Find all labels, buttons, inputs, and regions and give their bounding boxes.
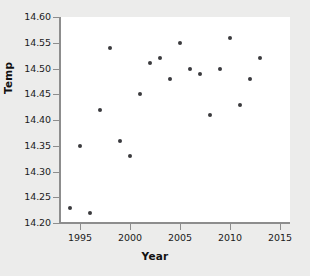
- data-point: [238, 103, 242, 107]
- x-axis-tick-label: 1995: [68, 232, 92, 243]
- y-axis-tick-label: 14.40: [24, 114, 51, 125]
- x-axis-tick: [180, 224, 181, 230]
- data-point: [218, 67, 222, 71]
- x-axis-tick-label: 2005: [168, 232, 192, 243]
- x-axis-tick-label: 2010: [218, 232, 242, 243]
- y-axis-line: [59, 17, 61, 224]
- y-axis-tick: [53, 94, 59, 95]
- x-axis-tick: [230, 224, 231, 230]
- plot-area: [59, 17, 290, 223]
- y-axis-tick: [53, 69, 59, 70]
- data-point: [88, 211, 92, 215]
- y-axis-tick-label: 14.20: [24, 217, 51, 228]
- data-point: [198, 72, 202, 76]
- x-axis-title: Year: [0, 250, 310, 262]
- y-axis-tick: [53, 120, 59, 121]
- x-axis-tick-label: 2015: [268, 232, 292, 243]
- x-axis-tick: [130, 224, 131, 230]
- x-axis-line: [59, 222, 290, 224]
- data-point: [78, 144, 82, 148]
- data-point: [98, 108, 102, 112]
- y-axis-title: Temp: [2, 62, 14, 94]
- data-point: [168, 77, 172, 81]
- scatter-plot-figure: 14.2014.2514.3014.3514.4014.4514.5014.55…: [0, 0, 310, 276]
- y-axis-tick-label: 14.55: [24, 37, 51, 48]
- y-axis-tick-label: 14.35: [24, 140, 51, 151]
- x-axis-tick: [280, 224, 281, 230]
- data-point: [188, 67, 192, 71]
- data-point: [208, 113, 212, 117]
- y-axis-tick-label: 14.45: [24, 88, 51, 99]
- y-axis-tick-label: 14.30: [24, 166, 51, 177]
- data-point: [68, 206, 72, 210]
- y-axis-tick: [53, 17, 59, 18]
- y-axis-tick: [53, 172, 59, 173]
- data-point: [228, 36, 232, 40]
- x-axis-tick: [80, 224, 81, 230]
- y-axis-tick-label: 14.25: [24, 191, 51, 202]
- data-point: [178, 41, 182, 45]
- data-point: [108, 46, 112, 50]
- data-point: [248, 77, 252, 81]
- y-axis-tick: [53, 197, 59, 198]
- y-axis-tick-label: 14.60: [24, 11, 51, 22]
- y-axis-tick-label: 14.50: [24, 63, 51, 74]
- y-axis-tick: [53, 223, 59, 224]
- data-point: [118, 139, 122, 143]
- data-point: [128, 154, 132, 158]
- y-axis-tick: [53, 146, 59, 147]
- y-axis-tick: [53, 43, 59, 44]
- x-axis-tick-label: 2000: [118, 232, 142, 243]
